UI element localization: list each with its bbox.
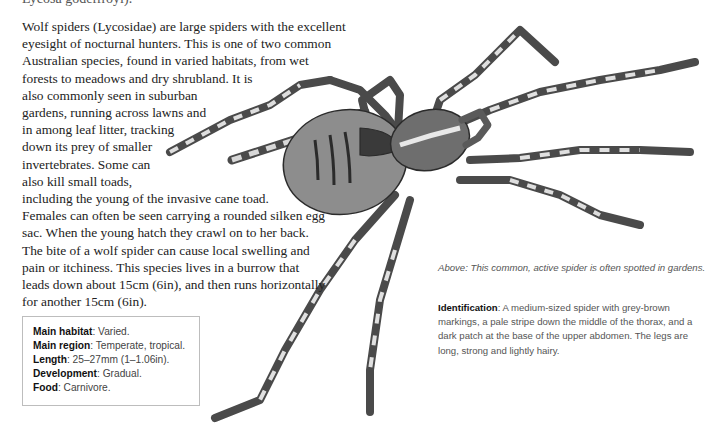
image-caption: Above: This common, active spider is oft…: [438, 261, 708, 275]
identification-paragraph: Identification: A medium-sized spider wi…: [438, 301, 710, 358]
fact-food: Food: Carnivore.: [33, 381, 189, 395]
fact-main-habitat: Main habitat: Varied.: [33, 325, 189, 339]
fact-main-region: Main region: Temperate, tropical.: [33, 339, 189, 353]
identification-label: Identification: [438, 302, 498, 313]
fact-development: Development: Gradual.: [33, 367, 189, 381]
fact-length: Length: 25–27mm (1–1.06in).: [33, 353, 189, 367]
body-paragraph: Wolf spiders (Lycosidae) are large spide…: [22, 18, 367, 310]
fact-box: Main habitat: Varied. Main region: Tempe…: [22, 316, 200, 406]
